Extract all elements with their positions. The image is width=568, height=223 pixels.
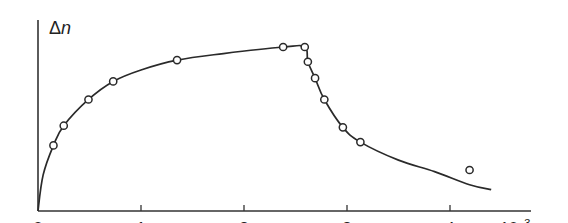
fitted-curve — [38, 46, 491, 211]
data-point-marker — [304, 58, 311, 65]
x-tick-label: 2 — [239, 219, 248, 223]
data-point-marker — [85, 96, 92, 103]
x-axis-label: 10−3t — [500, 217, 535, 223]
data-point-marker — [60, 122, 67, 129]
x-tick-label: 0 — [33, 219, 42, 223]
data-points — [50, 43, 473, 173]
data-point-marker — [466, 166, 473, 173]
data-point-marker — [173, 57, 180, 64]
data-point-marker — [339, 124, 346, 131]
data-point-marker — [357, 139, 364, 146]
y-axis-label: Δn — [49, 18, 71, 38]
curve-line — [38, 46, 491, 211]
chart: 0123410−3tΔn — [0, 0, 568, 223]
x-tick-label: 3 — [342, 219, 351, 223]
x-tick-label: 4 — [445, 219, 454, 223]
data-point-marker — [311, 75, 318, 82]
x-tick-label: 1 — [136, 219, 145, 223]
data-point-marker — [280, 43, 287, 50]
data-point-marker — [321, 96, 328, 103]
data-point-marker — [301, 43, 308, 50]
data-point-marker — [110, 78, 117, 85]
data-point-marker — [50, 142, 57, 149]
